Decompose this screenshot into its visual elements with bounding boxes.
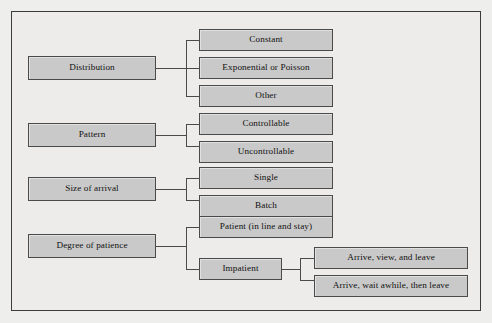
node-batch: Batch [199, 195, 333, 217]
node-single: Single [199, 167, 333, 189]
connector-pattern-stub [156, 135, 186, 136]
connector-single-stub [186, 178, 199, 179]
connector-uncontrollable-stub [186, 146, 199, 147]
connector-patient-stub [186, 227, 199, 228]
node-controllable: Controllable [199, 113, 333, 135]
node-arrive-wait-awhile-then-leave: Arrive, wait awhile, then leave [314, 275, 468, 297]
node-pattern: Pattern [28, 123, 156, 147]
connector-arrive-wait-awhile-then-leave-stub [300, 280, 314, 281]
connector-other-stub [186, 96, 199, 97]
node-exponential-or-poisson: Exponential or Poisson [199, 57, 333, 79]
figure-canvas: Distribution Constant Exponential or Poi… [0, 0, 492, 323]
node-uncontrollable: Uncontrollable [199, 141, 333, 163]
connector-arrive-view-and-leave-stub [300, 258, 314, 259]
connector-constant-stub [186, 40, 199, 41]
node-size-of-arrival: Size of arrival [28, 177, 156, 201]
node-impatient: Impatient [199, 258, 282, 280]
connector-size-of-arrival-stub [156, 189, 186, 190]
node-degree-of-patience: Degree of patience [28, 234, 156, 258]
connector-distribution-stub [156, 68, 186, 69]
node-other: Other [199, 85, 333, 107]
node-arrive-view-and-leave: Arrive, view, and leave [314, 247, 468, 269]
connector-impatient-sub-stub [282, 269, 300, 270]
node-constant: Constant [199, 29, 333, 51]
connector-exponential-stub [186, 68, 199, 69]
connector-pattern-bus [186, 124, 187, 146]
connector-controllable-stub [186, 124, 199, 125]
node-distribution: Distribution [28, 56, 156, 80]
connector-size-of-arrival-bus [186, 178, 187, 200]
connector-impatient-stub [186, 269, 199, 270]
node-patient: Patient (in line and stay) [199, 216, 333, 238]
connector-degree-of-patience-stub [156, 246, 186, 247]
connector-batch-stub [186, 200, 199, 201]
connector-degree-of-patience-bus [186, 227, 187, 269]
connector-impatient-sub-bus [300, 258, 301, 280]
